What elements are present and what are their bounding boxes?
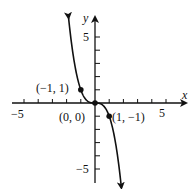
point-label-neg1-1: (−1, 1)	[36, 82, 69, 94]
y-tick-label-neg5: −5	[76, 163, 89, 175]
x-tick-label-neg5: −5	[11, 108, 24, 120]
x-tick-label-pos5: 5	[159, 107, 165, 119]
y-tick-label-pos5: 5	[83, 31, 89, 43]
data-point	[78, 87, 84, 93]
graph-canvas	[0, 0, 196, 189]
data-point	[92, 100, 98, 106]
point-label-1-neg1: (1, −1)	[112, 111, 145, 123]
x-axis-label: x	[182, 89, 187, 101]
point-label-origin: (0, 0)	[59, 111, 85, 123]
y-axis-label: y	[83, 12, 88, 24]
cubic-function-graph: x y −5 5 5 −5 (−1, 1) (0, 0) (1, −1)	[0, 0, 196, 189]
